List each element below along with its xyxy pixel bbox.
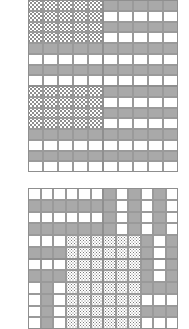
- matrix-cell: [103, 129, 118, 140]
- matrix-cell: [166, 317, 179, 329]
- matrix-cell: [148, 97, 163, 108]
- matrix-cell: [28, 188, 41, 200]
- matrix-cell: [43, 22, 58, 33]
- matrix-cell: [53, 270, 66, 282]
- matrix-cell: [133, 75, 148, 86]
- matrix-cell: [128, 200, 141, 212]
- matrix-cell: [133, 22, 148, 33]
- matrix-cell: [118, 0, 133, 11]
- matrix-cell: [41, 294, 54, 306]
- matrix-cell: [28, 317, 41, 329]
- matrix-cell: [133, 65, 148, 76]
- matrix-cell: [88, 54, 103, 65]
- matrix-cell: [28, 97, 43, 108]
- matrix-cell: [41, 188, 54, 200]
- matrix-cell: [73, 65, 88, 76]
- matrix-cell: [28, 86, 43, 97]
- matrix-cell: [91, 270, 104, 282]
- matrix-cell: [163, 118, 178, 129]
- figure-canvas: [0, 0, 189, 329]
- matrix-cell: [103, 161, 118, 172]
- matrix-cell: [91, 247, 104, 259]
- top-matrix: [28, 0, 178, 172]
- matrix-cell: [88, 129, 103, 140]
- matrix-cell: [53, 212, 66, 224]
- matrix-cell: [141, 212, 154, 224]
- matrix-cell: [103, 188, 116, 200]
- matrix-cell: [148, 151, 163, 162]
- matrix-cell: [66, 270, 79, 282]
- matrix-cell: [53, 306, 66, 318]
- matrix-cell: [116, 223, 129, 235]
- matrix-cell: [43, 43, 58, 54]
- matrix-cell: [41, 235, 54, 247]
- matrix-cell: [28, 0, 43, 11]
- matrix-cell: [153, 317, 166, 329]
- matrix-cell: [73, 118, 88, 129]
- matrix-cell: [163, 0, 178, 11]
- matrix-cell: [53, 294, 66, 306]
- matrix-cell: [41, 317, 54, 329]
- matrix-cell: [103, 97, 118, 108]
- matrix-cell: [66, 282, 79, 294]
- matrix-cell: [58, 43, 73, 54]
- matrix-cell: [148, 0, 163, 11]
- matrix-cell: [128, 294, 141, 306]
- matrix-cell: [103, 86, 118, 97]
- matrix-cell: [103, 43, 118, 54]
- matrix-cell: [53, 223, 66, 235]
- matrix-cell: [153, 235, 166, 247]
- matrix-cell: [166, 270, 179, 282]
- matrix-cell: [78, 282, 91, 294]
- matrix-cell: [58, 11, 73, 22]
- matrix-cell: [166, 235, 179, 247]
- matrix-cell: [66, 317, 79, 329]
- matrix-cell: [53, 247, 66, 259]
- matrix-cell: [28, 108, 43, 119]
- matrix-cell: [103, 140, 118, 151]
- matrix-cell: [66, 235, 79, 247]
- matrix-cell: [43, 108, 58, 119]
- matrix-cell: [103, 282, 116, 294]
- matrix-cell: [28, 54, 43, 65]
- matrix-cell: [153, 282, 166, 294]
- matrix-cell: [153, 294, 166, 306]
- matrix-cell: [133, 11, 148, 22]
- matrix-cell: [163, 22, 178, 33]
- matrix-cell: [166, 294, 179, 306]
- matrix-cell: [148, 118, 163, 129]
- matrix-cell: [91, 212, 104, 224]
- matrix-cell: [53, 188, 66, 200]
- matrix-cell: [41, 200, 54, 212]
- matrix-cell: [73, 151, 88, 162]
- matrix-cell: [88, 97, 103, 108]
- matrix-cell: [163, 43, 178, 54]
- matrix-cell: [163, 97, 178, 108]
- matrix-cell: [103, 32, 118, 43]
- matrix-cell: [118, 97, 133, 108]
- matrix-cell: [133, 161, 148, 172]
- matrix-cell: [153, 270, 166, 282]
- matrix-cell: [148, 54, 163, 65]
- matrix-cell: [166, 223, 179, 235]
- matrix-cell: [153, 306, 166, 318]
- matrix-cell: [118, 161, 133, 172]
- matrix-cell: [66, 294, 79, 306]
- matrix-cell: [103, 235, 116, 247]
- matrix-cell: [166, 259, 179, 271]
- matrix-cell: [148, 129, 163, 140]
- matrix-cell: [141, 223, 154, 235]
- matrix-cell: [166, 306, 179, 318]
- matrix-cell: [43, 129, 58, 140]
- matrix-cell: [73, 108, 88, 119]
- matrix-cell: [88, 11, 103, 22]
- matrix-cell: [116, 270, 129, 282]
- matrix-cell: [66, 259, 79, 271]
- matrix-cell: [163, 11, 178, 22]
- matrix-cell: [28, 11, 43, 22]
- matrix-cell: [166, 282, 179, 294]
- matrix-cell: [43, 11, 58, 22]
- matrix-cell: [43, 75, 58, 86]
- matrix-cell: [78, 200, 91, 212]
- matrix-cell: [28, 65, 43, 76]
